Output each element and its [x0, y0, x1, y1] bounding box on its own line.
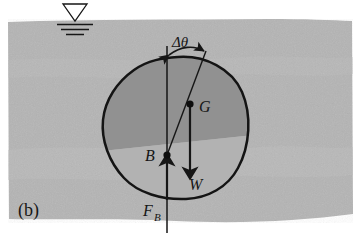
center-of-gravity-label: G [199, 98, 211, 115]
panel-label: (b) [18, 200, 39, 221]
tilt-angle-label: Δθ [171, 34, 189, 50]
buoyant-force-subscript: B [154, 211, 161, 223]
buoyancy-stability-figure: Δθ G W B F B (b) [0, 0, 360, 233]
buoyant-force-label: F [142, 202, 153, 219]
center-of-gravity-point [186, 100, 193, 107]
weight-label: W [189, 176, 204, 193]
center-of-buoyancy-label: B [145, 147, 155, 164]
center-of-buoyancy-point [163, 151, 170, 158]
